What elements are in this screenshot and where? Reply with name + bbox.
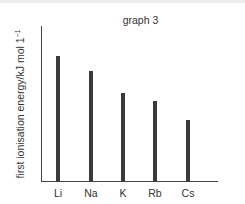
top-edge-strip bbox=[0, 0, 245, 3]
x-tick-k: K bbox=[119, 187, 126, 199]
bar-rb bbox=[153, 101, 157, 182]
x-tick-cs: Cs bbox=[182, 187, 195, 199]
x-tick-na: Na bbox=[84, 187, 97, 199]
x-tick-li: Li bbox=[54, 187, 62, 199]
chart-title: graph 3 bbox=[0, 14, 245, 26]
y-axis-label: first ionisation energy/kJ mol 1−1 bbox=[14, 29, 27, 178]
bar-na bbox=[89, 71, 93, 182]
bar-k bbox=[121, 93, 125, 182]
bar-li bbox=[56, 56, 60, 182]
y-axis-label-text: first ionisation energy/kJ mol 1 bbox=[14, 37, 26, 178]
plot-area bbox=[41, 26, 218, 182]
y-axis-label-superscript: −1 bbox=[14, 29, 21, 37]
x-axis-line bbox=[41, 181, 218, 182]
bar-cs bbox=[186, 120, 190, 182]
y-axis-line bbox=[41, 26, 42, 182]
x-tick-rb: Rb bbox=[148, 187, 161, 199]
